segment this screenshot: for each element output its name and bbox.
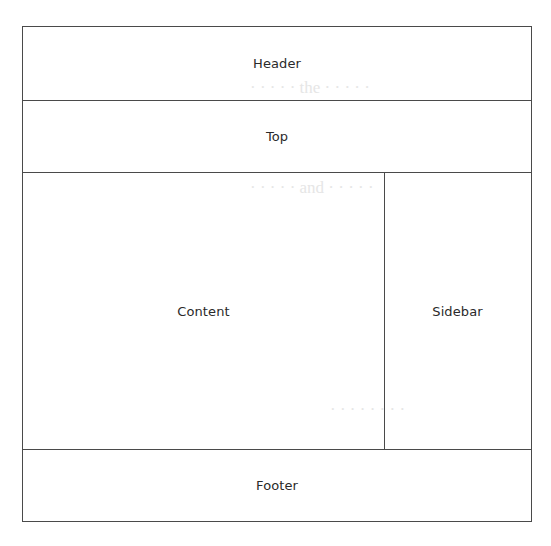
footer-label: Footer: [256, 478, 298, 493]
sidebar-label: Sidebar: [432, 304, 482, 319]
content-region: Content: [23, 173, 385, 449]
sidebar-region: Sidebar: [385, 173, 530, 449]
content-label: Content: [177, 304, 229, 319]
top-label: Top: [266, 129, 288, 144]
footer-region: Footer: [23, 449, 531, 521]
header-region: Header: [23, 27, 531, 101]
top-region: Top: [23, 101, 531, 173]
layout-frame: Header Top Content Sidebar Footer: [22, 26, 532, 522]
header-label: Header: [253, 56, 301, 71]
